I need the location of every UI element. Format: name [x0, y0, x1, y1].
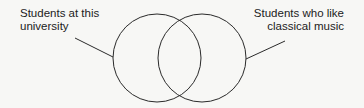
left-leader-line	[75, 38, 113, 57]
venn-diagram	[0, 0, 364, 108]
right-leader-line	[246, 41, 285, 59]
left-set-circle	[113, 14, 201, 102]
right-set-circle	[158, 14, 246, 102]
